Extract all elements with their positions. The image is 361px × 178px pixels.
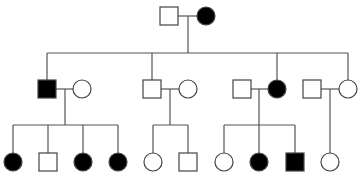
affected-female-circle-icon <box>268 80 286 98</box>
affected-male-square-icon <box>38 80 56 98</box>
unaffected-female-circle-icon <box>73 80 91 98</box>
unaffected-male-square-icon <box>233 80 251 98</box>
affected-female-circle-icon <box>250 153 268 171</box>
affected-female-circle-icon <box>74 153 92 171</box>
unaffected-male-square-icon <box>143 80 161 98</box>
affected-male-square-icon <box>286 153 304 171</box>
unaffected-female-circle-icon <box>179 80 197 98</box>
affected-female-circle-icon <box>4 153 22 171</box>
unaffected-male-square-icon <box>39 153 57 171</box>
unaffected-female-circle-icon <box>321 153 339 171</box>
unaffected-female-circle-icon <box>144 153 162 171</box>
unaffected-female-circle-icon <box>215 153 233 171</box>
unaffected-female-circle-icon <box>339 80 357 98</box>
unaffected-male-square-icon <box>179 153 197 171</box>
affected-female-circle-icon <box>197 7 215 25</box>
affected-female-circle-icon <box>109 153 127 171</box>
pedigree-chart <box>0 0 361 178</box>
unaffected-male-square-icon <box>303 80 321 98</box>
unaffected-male-square-icon <box>160 7 178 25</box>
